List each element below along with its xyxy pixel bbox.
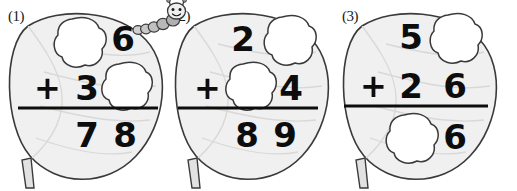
sum-ones-3: 6 [440, 120, 470, 154]
missing-digit-hole[interactable] [384, 112, 440, 166]
missing-digit-hole[interactable] [428, 12, 484, 66]
worksheet: (1) 6 + 3 7 8 [0, 0, 517, 191]
caterpillar-icon [132, 0, 194, 42]
addend-bottom-tens-1: 3 [72, 71, 102, 105]
addend-bottom-ones-2: 4 [276, 71, 306, 105]
sum-ones-2: 9 [270, 118, 300, 152]
problem-label-1: (1) [8, 8, 24, 25]
plus-operator-2: + [194, 72, 221, 104]
sum-tens-1: 7 [72, 118, 102, 152]
missing-digit-hole[interactable] [262, 14, 318, 68]
problem-label-3: (3) [342, 8, 358, 25]
plus-operator-3: + [360, 70, 387, 102]
addend-bottom-tens-3: 2 [396, 69, 426, 103]
sum-rule-line-3 [344, 102, 488, 110]
sum-tens-2: 8 [232, 118, 262, 152]
addend-bottom-ones-3: 6 [440, 69, 470, 103]
sum-rule-line-1 [18, 104, 158, 112]
sum-rule-line-2 [178, 104, 318, 112]
problem-3: (3) 5 + 2 6 6 [334, 0, 506, 191]
sum-ones-1: 8 [110, 118, 140, 152]
plus-operator-1: + [34, 72, 61, 104]
addend-top-tens-3: 5 [396, 20, 426, 54]
addend-top-tens-2: 2 [228, 22, 258, 56]
